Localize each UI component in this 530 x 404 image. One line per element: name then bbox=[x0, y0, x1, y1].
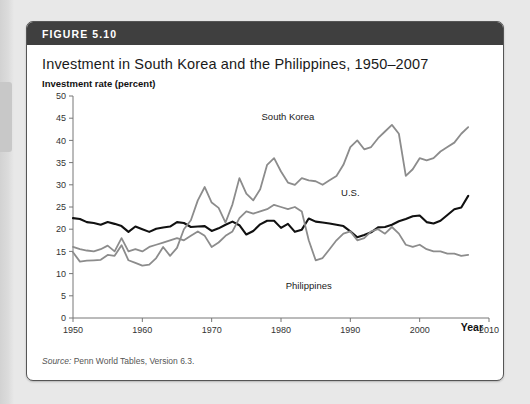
svg-text:Philippines: Philippines bbox=[286, 280, 332, 291]
svg-text:1970: 1970 bbox=[202, 325, 222, 335]
figure-card: FIGURE 5.10 Investment in South Korea an… bbox=[26, 21, 504, 381]
page-edge-tab bbox=[0, 82, 12, 152]
svg-text:10: 10 bbox=[56, 269, 66, 279]
svg-text:1950: 1950 bbox=[63, 325, 83, 335]
source-prefix: Source: bbox=[42, 356, 71, 366]
chart-area: Investment rate (percent) Year 051015202… bbox=[27, 78, 504, 346]
svg-text:30: 30 bbox=[56, 180, 66, 190]
svg-text:South Korea: South Korea bbox=[262, 111, 316, 122]
svg-text:5: 5 bbox=[61, 291, 66, 301]
svg-text:40: 40 bbox=[56, 136, 66, 146]
source-text: Penn World Tables, Version 6.3. bbox=[71, 356, 194, 366]
figure-title: Investment in South Korea and the Philip… bbox=[42, 56, 503, 72]
svg-text:U.S.: U.S. bbox=[341, 187, 359, 198]
svg-text:1960: 1960 bbox=[132, 325, 152, 335]
svg-text:50: 50 bbox=[56, 91, 66, 101]
source-note: Source: Penn World Tables, Version 6.3. bbox=[42, 356, 194, 366]
figure-header-bar: FIGURE 5.10 bbox=[27, 22, 503, 45]
svg-text:25: 25 bbox=[56, 202, 66, 212]
svg-text:2000: 2000 bbox=[410, 325, 430, 335]
svg-text:35: 35 bbox=[56, 158, 66, 168]
svg-text:15: 15 bbox=[56, 247, 66, 257]
figure-number-label: FIGURE 5.10 bbox=[42, 28, 117, 40]
svg-text:1990: 1990 bbox=[340, 325, 360, 335]
svg-text:20: 20 bbox=[56, 224, 66, 234]
line-chart-plot: 0510152025303540455019501960197019801990… bbox=[27, 78, 504, 346]
svg-text:1980: 1980 bbox=[271, 325, 291, 335]
svg-text:45: 45 bbox=[56, 113, 66, 123]
svg-text:0: 0 bbox=[61, 313, 66, 323]
svg-text:2010: 2010 bbox=[479, 325, 499, 335]
